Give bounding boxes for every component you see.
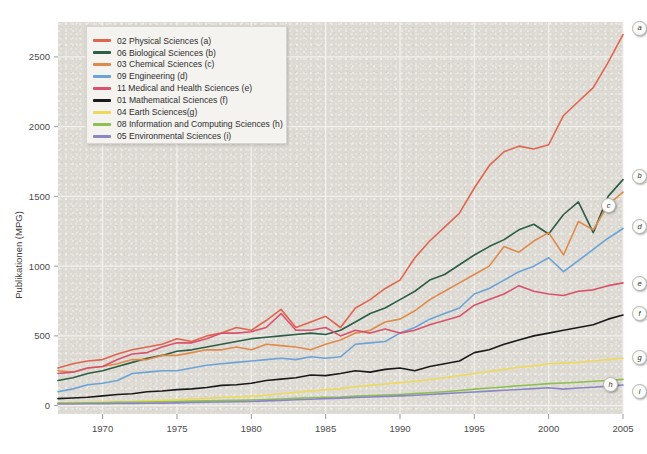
y-tick-label: 2000 [29,121,50,132]
series-line-h [58,379,623,403]
legend-swatch-icon [93,51,111,54]
legend-item-label: 11 Medical and Health Sciences (e) [117,84,252,93]
legend-item[interactable]: 08 Information and Computing Sciences (h… [93,118,286,130]
series-line-c [58,192,623,372]
legend-item-label: 04 Earth Sciences(g) [117,108,197,117]
endpoint-badge-label: i [639,388,641,396]
legend-swatch-icon [93,111,111,114]
endpoint-badge-label: d [637,223,641,231]
endpoint-badge-b[interactable]: b [632,169,647,184]
legend-item[interactable]: 01 Mathematical Sciences (f) [93,94,286,106]
endpoint-badge-g[interactable]: g [632,350,647,365]
legend-swatch-icon [93,39,111,42]
legend-item-label: 02 Physical Sciences (a) [117,37,211,46]
legend-item-label: 09 Engineering (d) [117,72,188,81]
legend-swatch-icon [93,99,111,102]
legend-item-label: 05 Environmental Sciences (i) [117,132,231,141]
x-tick-label: 1995 [464,423,485,434]
y-axis-title: Publikationen (MPG) [13,211,24,299]
endpoint-badge-f[interactable]: f [632,306,647,321]
x-tick-label: 2005 [612,423,633,434]
endpoint-badge-a[interactable]: a [632,21,647,36]
legend-list: 02 Physical Sciences (a)06 Biological Sc… [87,27,286,143]
legend-item[interactable]: 05 Environmental Sciences (i) [93,130,286,142]
x-tick-label: 1975 [166,423,187,434]
series-line-g [58,358,623,403]
legend-item-label: 03 Chemical Sciences (c) [117,60,214,69]
endpoint-badge-label: h [608,381,612,389]
legend-swatch-icon [93,135,111,138]
legend-item[interactable]: 02 Physical Sciences (a) [93,35,286,47]
series-line-b [58,180,623,381]
legend-swatch-icon [93,87,111,90]
legend-swatch-icon [93,75,111,78]
legend: 02 Physical Sciences (a)06 Biological Sc… [86,26,287,144]
legend-item[interactable]: 04 Earth Sciences(g) [93,106,286,118]
endpoint-badge-i[interactable]: i [632,384,647,399]
legend-item[interactable]: 03 Chemical Sciences (c) [93,59,286,71]
x-tick-label: 1990 [389,423,410,434]
y-tick-label: 500 [34,330,50,341]
x-tick-label: 1985 [315,423,336,434]
y-tick-label: 1500 [29,191,50,202]
legend-item[interactable]: 09 Engineering (d) [93,71,286,83]
endpoint-badge-label: c [607,202,611,210]
endpoint-badge-label: g [637,354,641,362]
endpoint-badge-label: a [637,24,641,32]
y-tick-label: 0 [45,400,50,411]
legend-item-label: 06 Biological Sciences (b) [117,49,216,58]
series-line-d [58,228,623,391]
x-tick-label: 1980 [241,423,262,434]
x-tick-label: 2000 [538,423,559,434]
legend-swatch-icon [93,123,111,126]
legend-item[interactable]: 06 Biological Sciences (b) [93,47,286,59]
endpoint-badge-label: f [638,310,640,318]
legend-item-label: 08 Information and Computing Sciences (h… [117,120,283,129]
endpoint-badge-label: e [637,280,641,288]
x-tick-label: 1970 [92,423,113,434]
legend-item-label: 01 Mathematical Sciences (f) [117,96,228,105]
legend-swatch-icon [93,63,111,66]
endpoint-badge-e[interactable]: e [632,276,647,291]
legend-item[interactable]: 11 Medical and Health Sciences (e) [93,83,286,95]
y-tick-label: 1000 [29,261,50,272]
endpoint-badge-label: b [637,172,641,180]
y-tick-label: 2500 [29,51,50,62]
x-axis-ticks: 19701975198019851990199520002005 [92,414,634,434]
endpoint-badge-d[interactable]: d [632,219,647,234]
y-axis-ticks: 05001000150020002500 [29,51,58,411]
